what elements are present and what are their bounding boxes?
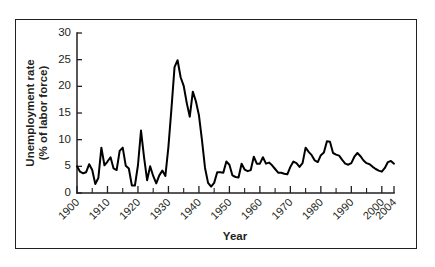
x-tick-label: 1940 — [178, 196, 204, 222]
data-line-group — [77, 60, 394, 186]
x-axis-title: Year — [223, 230, 248, 242]
y-tick-label: 20 — [58, 79, 71, 91]
x-tick-label: 1960 — [239, 196, 265, 222]
unemployment-series-line — [77, 60, 394, 186]
y-axis-title-line1: Unemployment rate — [24, 59, 36, 166]
y-axis-title-line2: (% of labor force) — [37, 66, 49, 161]
y-tick-labels: 051015202530 — [58, 26, 71, 198]
y-tick-label: 5 — [65, 159, 71, 171]
x-tick-labels: 1900191019201930194019501960197019801990… — [56, 196, 399, 222]
ticks-group — [77, 33, 394, 193]
x-tick-label: 1970 — [269, 196, 295, 222]
x-tick-label: 1900 — [56, 196, 82, 222]
y-tick-label: 0 — [65, 186, 71, 198]
y-tick-label: 30 — [58, 26, 71, 38]
figure-root: 051015202530 190019101920193019401950196… — [0, 0, 435, 267]
y-tick-label: 10 — [58, 133, 71, 145]
x-tick-label: 1990 — [330, 196, 356, 222]
y-tick-label: 25 — [58, 53, 71, 65]
unemployment-chart: 051015202530 190019101920193019401950196… — [0, 0, 435, 267]
x-tick-label: 1930 — [147, 196, 173, 222]
x-tick-label: 1920 — [117, 196, 143, 222]
x-tick-label: 1950 — [208, 196, 234, 222]
y-tick-label: 15 — [58, 106, 71, 118]
axes-group — [77, 33, 394, 193]
x-tick-label: 1980 — [299, 196, 325, 222]
x-tick-label: 1910 — [86, 196, 112, 222]
